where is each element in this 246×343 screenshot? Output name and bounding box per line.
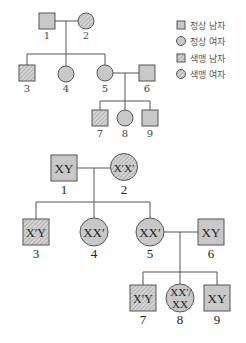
- genotype-3: X′Y: [26, 226, 46, 240]
- pedigree-bottom: [23, 154, 230, 313]
- legend-labels: 정상 남자 정상 여자 색맹 남자 색맹 여자: [190, 21, 226, 80]
- node-label: 6: [144, 83, 150, 94]
- node-label: 5: [102, 83, 108, 94]
- node-6-normal-male: [139, 65, 155, 81]
- genotype-6: XY: [202, 225, 221, 240]
- genotype-7: X′Y: [133, 292, 153, 306]
- genotype-8-line2: XX: [172, 298, 188, 310]
- legend-icon-normal-female: [177, 37, 186, 46]
- genotype-1: XY: [55, 161, 74, 176]
- node-label: 3: [33, 246, 40, 261]
- node-label: 1: [44, 30, 50, 41]
- genotype-5: XX′: [139, 225, 161, 240]
- legend: [177, 21, 186, 79]
- node-label: 5: [147, 246, 154, 261]
- node-label: 4: [91, 246, 98, 261]
- node-7-colorblind-male: [92, 110, 108, 126]
- node-label: 1: [61, 182, 68, 197]
- node-label: 8: [122, 128, 128, 139]
- node-label: 7: [97, 128, 103, 139]
- node-label: 8: [177, 312, 184, 327]
- node-label: 9: [147, 128, 153, 139]
- genotype-2: X′X′: [114, 162, 135, 174]
- pedigree-top-labels: 1 2 3 4 5 6 7 8 9: [24, 30, 153, 139]
- node-1-normal-male: [39, 13, 55, 29]
- pedigree-figure: 1 2 3 4 5 6 7 8 9 정상 남자 정상 여자 색맹 남자 색맹 여…: [0, 0, 246, 343]
- genotype-8-line1: XX′/: [170, 286, 192, 298]
- legend-label-colorblind-female: 색맹 여자: [190, 69, 226, 80]
- node-4-normal-female: [58, 66, 74, 82]
- legend-label-colorblind-male: 색맹 남자: [190, 54, 226, 64]
- legend-label-normal-female: 정상 여자: [190, 36, 226, 47]
- legend-icon-normal-male: [177, 21, 185, 29]
- node-label: 4: [63, 83, 69, 94]
- node-2-colorblind-female: [78, 13, 94, 29]
- node-label: 6: [208, 246, 215, 261]
- legend-icon-colorblind-female: [177, 70, 186, 79]
- node-label: 3: [24, 83, 30, 94]
- genotype-9: XY: [208, 291, 227, 306]
- node-label: 7: [140, 312, 147, 327]
- legend-label-normal-male: 정상 남자: [190, 21, 226, 31]
- node-3-colorblind-male: [19, 65, 35, 81]
- node-5-normal-female: [97, 65, 113, 81]
- legend-icon-colorblind-male: [177, 54, 185, 62]
- node-8-normal-female: [117, 110, 133, 126]
- node-label: 2: [83, 30, 89, 41]
- genotype-4: XX′: [83, 225, 105, 240]
- node-label: 9: [214, 312, 221, 327]
- node-9-normal-male: [142, 110, 158, 126]
- node-label: 2: [121, 182, 128, 197]
